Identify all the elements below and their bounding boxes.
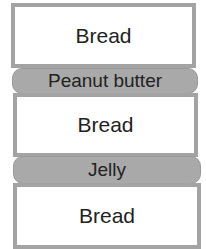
layer-label: Bread (75, 24, 131, 48)
bread-layer-bottom: Bread (13, 183, 201, 249)
jelly-layer: Jelly (13, 156, 201, 184)
layer-label: Bread (79, 204, 135, 228)
peanut-butter-layer: Peanut butter (12, 68, 198, 94)
layer-label: Jelly (88, 159, 126, 181)
bread-layer-middle: Bread (13, 93, 198, 157)
layer-label: Peanut butter (48, 70, 162, 92)
layer-label: Bread (77, 113, 133, 137)
bread-layer-top: Bread (11, 3, 196, 68)
